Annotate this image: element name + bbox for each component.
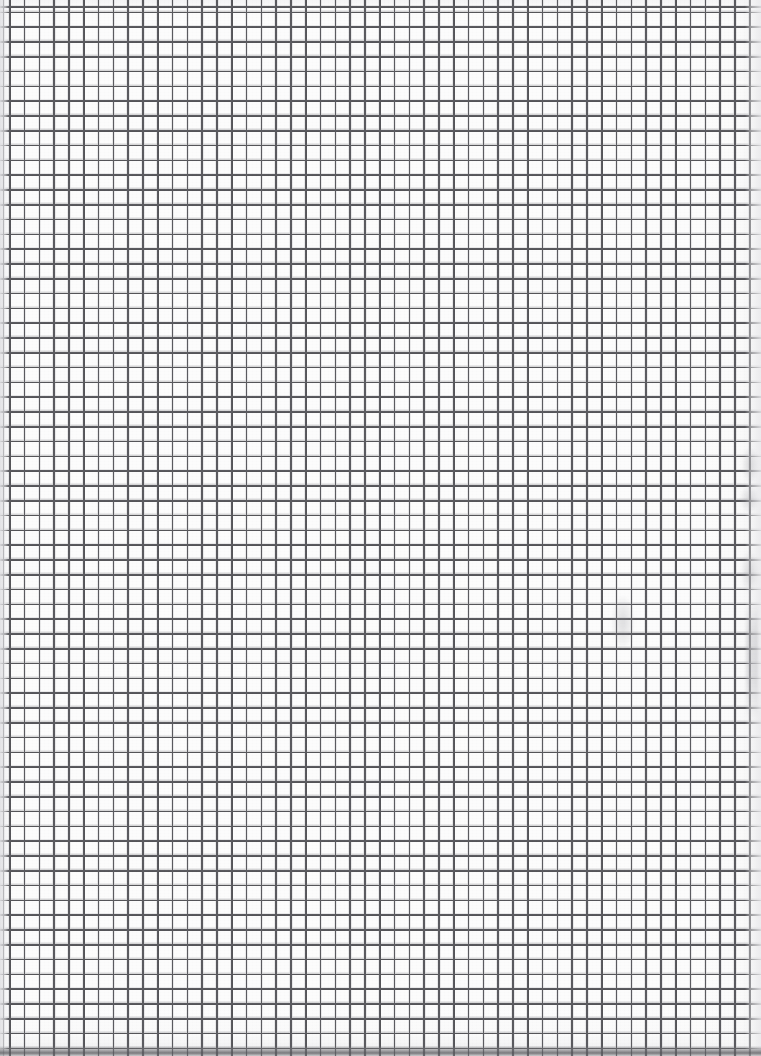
graph-paper-sheet xyxy=(0,0,761,1056)
paper-background xyxy=(0,0,761,1056)
